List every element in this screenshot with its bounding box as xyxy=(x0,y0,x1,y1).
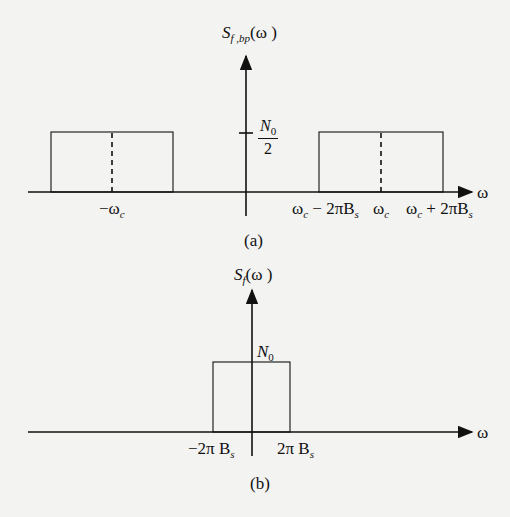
level-b-sub: 0 xyxy=(268,351,274,363)
figure-a xyxy=(28,56,472,216)
tick-neg-2piBs: −2π Bs xyxy=(188,440,235,460)
ylabel-b-main: S xyxy=(234,265,243,284)
level-num-main: N xyxy=(260,117,271,134)
tick-neg-wc-sub: c xyxy=(120,208,125,220)
tick-high-rest-sub: s xyxy=(469,208,473,220)
tick-wc-plus-2piBs: ωc + 2πBs xyxy=(406,200,473,220)
ylabel-b: Sf(ω ) xyxy=(234,266,272,286)
ylabel-b-arg: (ω ) xyxy=(246,265,273,284)
level-num-sub: 0 xyxy=(271,125,277,137)
tick-wc-minus-2piBs: ωc − 2πBs xyxy=(292,200,359,220)
ylabel-a-sub: f ,bp xyxy=(231,32,251,44)
tick-high-main: ω xyxy=(406,199,417,218)
tick-pos-2piBs: 2π Bs xyxy=(277,440,314,460)
tick-wc-sub: c xyxy=(384,208,389,220)
caption-a: (a) xyxy=(244,232,263,249)
tick-neg-wc: −ωc xyxy=(99,200,125,220)
level-den: 2 xyxy=(258,139,278,157)
level-label-b: N0 xyxy=(257,343,274,363)
ylabel-a-arg: (ω ) xyxy=(250,23,277,42)
figure-b xyxy=(28,290,472,456)
level-b-main: N xyxy=(257,342,268,361)
x-axis-label-b: ω xyxy=(477,424,488,441)
x-axis-label-a: ω xyxy=(477,184,488,201)
tick-wc: ωc xyxy=(373,200,389,220)
tick-pos-main: 2π B xyxy=(277,439,310,458)
diagram-canvas xyxy=(0,0,510,517)
caption-b: (b) xyxy=(250,475,270,492)
tick-low-rest-sub: s xyxy=(355,208,359,220)
tick-neg-main: −2π B xyxy=(188,439,230,458)
level-num: N0 xyxy=(258,118,278,139)
tick-neg-wc-main: −ω xyxy=(99,199,120,218)
ylabel-a: Sf ,bp(ω ) xyxy=(222,24,277,44)
tick-low-rest: − 2πB xyxy=(308,199,355,218)
tick-high-rest: + 2πB xyxy=(422,199,469,218)
ylabel-a-main: S xyxy=(222,23,231,42)
tick-wc-main: ω xyxy=(373,199,384,218)
tick-low-main: ω xyxy=(292,199,303,218)
level-label-a: N0 2 xyxy=(258,118,278,157)
tick-pos-sub: s xyxy=(310,448,314,460)
tick-neg-sub: s xyxy=(230,448,234,460)
